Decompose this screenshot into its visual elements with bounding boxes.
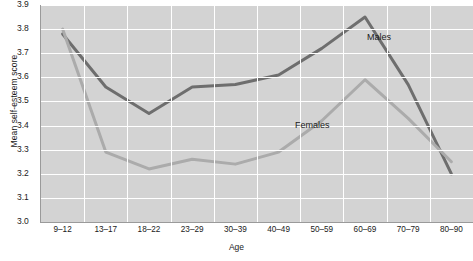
series-label-females: Females bbox=[295, 120, 330, 130]
x-axis-tick-label: 30–39 bbox=[224, 225, 247, 234]
gridline-vertical bbox=[171, 5, 172, 222]
gridline-vertical bbox=[300, 5, 301, 222]
gridline-vertical bbox=[343, 5, 344, 222]
gridline-vertical bbox=[127, 5, 128, 222]
x-axis-tick-label: 50–59 bbox=[310, 225, 333, 234]
line-chart: Mean self-esteem score 3.03.13.23.33.43.… bbox=[0, 0, 473, 261]
y-axis-tick-labels: 3.03.13.23.33.43.53.63.73.83.9 bbox=[0, 0, 41, 261]
x-axis-tick-label: 23–29 bbox=[181, 225, 204, 234]
x-axis-tick-label: 9–12 bbox=[53, 225, 71, 234]
gridline-vertical bbox=[257, 5, 258, 222]
x-axis-tick-label: 18–22 bbox=[138, 225, 161, 234]
x-axis-tick-label: 80–90 bbox=[440, 225, 463, 234]
x-axis-title: Age bbox=[0, 242, 473, 252]
gridline-vertical bbox=[214, 5, 215, 222]
x-axis-tick-label: 13–17 bbox=[94, 225, 117, 234]
x-axis-tick-label: 60–69 bbox=[354, 225, 377, 234]
plot-area bbox=[41, 5, 473, 222]
x-axis-tick-label: 40–49 bbox=[267, 225, 290, 234]
y-axis-line bbox=[40, 5, 41, 223]
gridline-vertical bbox=[430, 5, 431, 222]
gridline-vertical bbox=[84, 5, 85, 222]
x-axis-tick-label: 70–79 bbox=[397, 225, 420, 234]
series-label-males: Males bbox=[367, 32, 391, 42]
x-axis-line bbox=[41, 222, 473, 223]
